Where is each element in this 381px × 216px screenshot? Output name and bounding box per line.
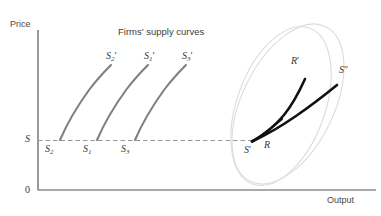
- firm-top-label-s2-prime: S2′: [106, 51, 117, 63]
- y-axis-label: Price: [10, 20, 31, 29]
- market-curve-r-prime: [252, 79, 305, 142]
- grouping-ellipses: [209, 7, 367, 202]
- market-origin-label-s-prime: S′: [244, 145, 251, 155]
- market-lower-label-double-prime-mark: ″: [344, 64, 348, 75]
- firm-top-label-s3-prime-mark: ′: [191, 50, 193, 61]
- market-upper-label-r-prime: R′: [291, 56, 299, 66]
- firm-top-label-s1-prime-mark: ′: [153, 50, 155, 61]
- price-level-label: S: [25, 134, 30, 144]
- origin-label: 0: [25, 185, 30, 195]
- firm-base-label-s2: S2: [45, 144, 54, 156]
- firm-base-label-s1: S1: [83, 144, 92, 156]
- market-kink-label-r: R: [264, 140, 270, 150]
- firm-top-label-s1-prime: S1′: [144, 51, 155, 63]
- market-upper-label-prime-mark: ′: [297, 55, 299, 66]
- firm-base-label-s3: S3: [121, 144, 130, 156]
- firm-base-label-s3-sub: 3: [126, 148, 130, 156]
- market-supply-curves: [252, 79, 337, 142]
- firm-base-label-s1-sub: 1: [88, 148, 92, 156]
- firm-base-label-s2-sub: 2: [50, 148, 54, 156]
- supply-curves-figure: Price Output 0 S Firms' supply curves S2…: [0, 0, 381, 216]
- market-lower-label-s-double-prime: S″: [339, 65, 348, 75]
- x-axis-label: Output: [327, 196, 354, 205]
- firm-top-label-s2-prime-mark: ′: [115, 50, 117, 61]
- chart-title: Firms' supply curves: [118, 27, 204, 37]
- firm-top-label-s3-prime: S3′: [182, 51, 193, 63]
- firm-supply-curves: [60, 65, 186, 140]
- grouping-ellipse-inner: [211, 13, 350, 199]
- grouping-ellipse-outer: [209, 7, 367, 202]
- axes: [38, 30, 376, 190]
- firm-supply-curve-s3: [135, 65, 186, 140]
- market-origin-label-prime-mark: ′: [249, 144, 251, 155]
